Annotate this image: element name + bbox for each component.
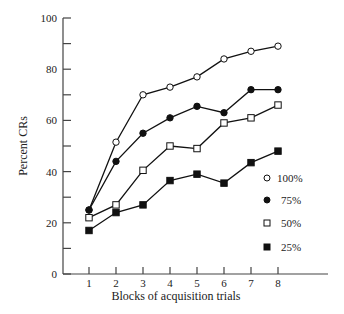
y-ticks: 020406080100 bbox=[41, 12, 72, 280]
filled-square-marker bbox=[140, 202, 146, 208]
x-tick-label: 3 bbox=[140, 277, 146, 289]
y-tick-label: 0 bbox=[52, 268, 58, 280]
x-tick-label: 8 bbox=[275, 277, 281, 289]
legend-item: 50% bbox=[264, 217, 301, 229]
series-line bbox=[89, 46, 278, 210]
open-circle-marker bbox=[113, 139, 119, 145]
chart-canvas: 020406080100 12345678 Percent CRs Blocks… bbox=[0, 0, 344, 314]
open-circle-marker bbox=[221, 56, 227, 62]
legend-item: 25% bbox=[264, 241, 301, 253]
open-square-marker bbox=[140, 167, 146, 173]
legend-label: 75% bbox=[281, 194, 301, 206]
series-line bbox=[89, 90, 278, 210]
filled-circle-marker bbox=[167, 115, 173, 121]
open-square-marker bbox=[113, 202, 119, 208]
series-100-percent bbox=[86, 43, 281, 213]
open-square-marker bbox=[221, 120, 227, 126]
x-tick-label: 4 bbox=[167, 277, 173, 289]
filled-square-marker bbox=[194, 171, 200, 177]
filled-circle-marker bbox=[264, 197, 270, 203]
open-circle-marker bbox=[264, 175, 270, 181]
y-tick-label: 80 bbox=[46, 63, 58, 75]
legend-item: 100% bbox=[264, 172, 303, 184]
filled-circle-marker bbox=[275, 86, 281, 92]
filled-square-marker bbox=[275, 148, 281, 154]
filled-square-marker bbox=[248, 159, 254, 165]
open-circle-marker bbox=[167, 84, 173, 90]
open-circle-marker bbox=[275, 43, 281, 49]
plot-series bbox=[86, 43, 281, 234]
open-circle-marker bbox=[194, 74, 200, 80]
y-tick-label: 100 bbox=[41, 12, 58, 24]
legend-item: 75% bbox=[264, 194, 301, 206]
filled-circle-marker bbox=[140, 130, 146, 136]
y-axis-title: Percent CRs bbox=[16, 116, 30, 176]
open-square-marker bbox=[167, 143, 173, 149]
y-tick-label: 40 bbox=[46, 166, 58, 178]
x-tick-label: 1 bbox=[86, 277, 92, 289]
open-square-marker bbox=[264, 220, 270, 226]
filled-square-marker bbox=[264, 244, 270, 250]
legend-label: 25% bbox=[281, 241, 301, 253]
filled-circle-marker bbox=[113, 158, 119, 164]
legend-label: 50% bbox=[281, 217, 301, 229]
open-square-marker bbox=[275, 102, 281, 108]
filled-circle-marker bbox=[221, 110, 227, 116]
x-tick-label: 6 bbox=[221, 277, 227, 289]
series-75-percent bbox=[86, 86, 281, 213]
y-tick-label: 20 bbox=[46, 217, 58, 229]
filled-square-marker bbox=[167, 177, 173, 183]
filled-square-marker bbox=[221, 180, 227, 186]
filled-circle-marker bbox=[248, 86, 254, 92]
open-square-marker bbox=[248, 115, 254, 121]
filled-circle-marker bbox=[86, 207, 92, 213]
y-tick-label: 60 bbox=[46, 114, 58, 126]
open-square-marker bbox=[86, 214, 92, 220]
x-tick-label: 7 bbox=[248, 277, 254, 289]
legend-label: 100% bbox=[277, 172, 303, 184]
filled-square-marker bbox=[113, 209, 119, 215]
x-tick-label: 5 bbox=[194, 277, 200, 289]
line-chart: 020406080100 12345678 Percent CRs Blocks… bbox=[0, 0, 344, 314]
filled-square-marker bbox=[86, 227, 92, 233]
open-circle-marker bbox=[248, 48, 254, 54]
x-ticks: 12345678 bbox=[86, 267, 281, 289]
open-circle-marker bbox=[140, 92, 146, 98]
x-axis-title: Blocks of acquisition trials bbox=[112, 289, 241, 303]
open-square-marker bbox=[194, 145, 200, 151]
filled-circle-marker bbox=[194, 103, 200, 109]
legend: 100%75%50%25% bbox=[264, 172, 303, 253]
x-tick-label: 2 bbox=[113, 277, 119, 289]
